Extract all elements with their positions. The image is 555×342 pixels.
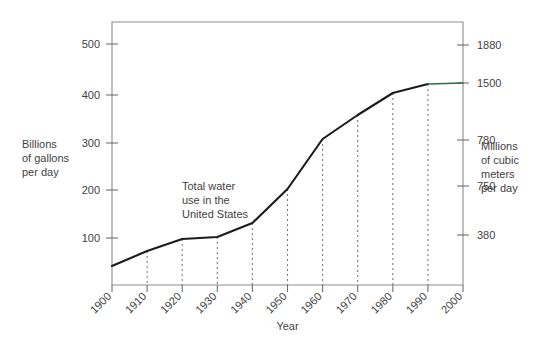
- y2-tick-label-1880: 1880: [477, 39, 501, 51]
- y-tick-label-300: 300: [82, 137, 100, 149]
- y2-tick-label-1500: 1500: [477, 77, 501, 89]
- y-axis-right-title-line-2: of cubic: [481, 154, 519, 166]
- y-axis-right-title-line-1: Millions: [481, 140, 518, 152]
- y-tick-label-100: 100: [82, 232, 100, 244]
- annotation-line-2: use in the: [182, 194, 230, 206]
- water-use-line-chart: 500 400 300 200 100 Billions of gallons …: [0, 0, 555, 342]
- y-tick-label-200: 200: [82, 184, 100, 196]
- y-axis-right-title-line-3: meters: [481, 168, 515, 180]
- y-axis-left-title-line-2: of gallons: [22, 152, 70, 164]
- y-axis-left-title-line-3: per day: [22, 166, 59, 178]
- y-tick-label-500: 500: [82, 38, 100, 50]
- y-axis-left-title-line-1: Billions: [22, 138, 57, 150]
- annotation-line-3: United States: [182, 208, 249, 220]
- chart-background: [0, 0, 555, 342]
- x-axis-title: Year: [276, 320, 299, 332]
- chart-container: 500 400 300 200 100 Billions of gallons …: [0, 0, 555, 342]
- y-tick-label-400: 400: [82, 89, 100, 101]
- data-series-line-tail: [428, 83, 463, 84]
- y-axis-right-title-line-4: per day: [481, 182, 518, 194]
- annotation-line-1: Total water: [182, 180, 236, 192]
- y2-tick-label-380: 380: [477, 229, 495, 241]
